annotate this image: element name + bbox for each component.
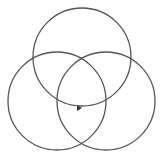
venn-diagram [0,0,164,165]
top-circle [33,8,131,106]
